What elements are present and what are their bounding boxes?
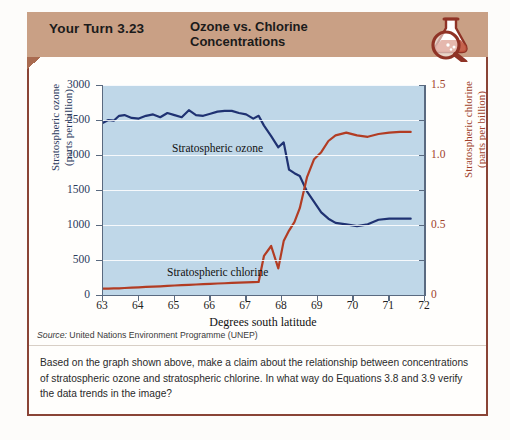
series-line-stratospheric-ozone	[103, 110, 411, 226]
left-tick-mark	[96, 120, 102, 121]
title-line-2: Concentrations	[190, 34, 420, 49]
x-tick-label: 71	[376, 299, 400, 311]
gridline	[103, 120, 425, 121]
gridline	[103, 85, 425, 86]
left-tick-mark	[96, 155, 102, 156]
exercise-header: Your Turn 3.23 Ozone vs. Chlorine Concen…	[27, 12, 488, 57]
left-tick-mark	[96, 190, 102, 191]
x-tick-label: 70	[340, 299, 364, 311]
left-axis-title-line2: (parts per billion)	[61, 89, 73, 166]
gridline	[103, 190, 425, 191]
left-axis-title-line1: Stratospheric ozone	[49, 84, 61, 171]
x-tick-label: 68	[269, 299, 293, 311]
section-divider	[29, 345, 486, 346]
x-tick-label: 66	[197, 299, 221, 311]
x-tick-label: 69	[305, 299, 329, 311]
exercise-number-label: Your Turn 3.23	[49, 21, 144, 36]
right-tick-mark	[419, 155, 425, 156]
left-tick-mark	[96, 85, 102, 86]
right-tick-mark	[419, 190, 425, 191]
plot-area	[102, 85, 425, 296]
left-tick-label: 500	[44, 253, 90, 265]
right-tick-label: 0	[431, 288, 465, 300]
gridline	[103, 225, 425, 226]
source-prefix: Source:	[37, 330, 67, 340]
left-tick-mark	[96, 225, 102, 226]
right-axis-title-line2: (parts per billion)	[474, 91, 486, 168]
right-tick-label: 1.0	[431, 148, 465, 160]
x-tick-label: 72	[412, 299, 436, 311]
x-tick-label: 67	[233, 299, 257, 311]
x-axis-title: Degrees south latitude	[102, 315, 424, 330]
gridline	[103, 260, 425, 261]
title-line-1: Ozone vs. Chlorine	[190, 19, 420, 34]
left-axis-title: Stratospheric ozone (parts per billion)	[49, 48, 74, 208]
gridline	[103, 155, 425, 156]
question-text: Based on the graph shown above, make a c…	[40, 355, 470, 402]
right-tick-label: 1.5	[431, 78, 465, 90]
chart-figure: 050010001500200025003000 00.51.01.5 6364…	[27, 57, 488, 325]
source-line: Source: United Nations Environment Progr…	[37, 330, 258, 340]
left-tick-label: 1000	[44, 218, 90, 230]
right-axis-title: Stratospheric chlorine (parts per billio…	[462, 50, 487, 210]
right-axis-title-line1: Stratospheric chlorine	[462, 81, 474, 178]
right-tick-mark	[419, 120, 425, 121]
ozone-series-annotation: Stratospheric ozone	[172, 142, 263, 154]
right-tick-label: 0.5	[431, 218, 465, 230]
page-background: Your Turn 3.23 Ozone vs. Chlorine Concen…	[0, 0, 510, 440]
right-tick-mark	[419, 225, 425, 226]
right-tick-mark	[419, 85, 425, 86]
right-tick-mark	[419, 260, 425, 261]
left-tick-label: 0	[44, 288, 90, 300]
x-tick-label: 64	[126, 299, 150, 311]
page-title: Ozone vs. Chlorine Concentrations	[190, 19, 420, 49]
x-tick-label: 63	[90, 299, 114, 311]
left-tick-mark	[96, 260, 102, 261]
x-tick-label: 65	[162, 299, 186, 311]
chlorine-series-annotation: Stratospheric chlorine	[167, 266, 268, 278]
source-text: United Nations Environment Programme (UN…	[67, 330, 258, 340]
